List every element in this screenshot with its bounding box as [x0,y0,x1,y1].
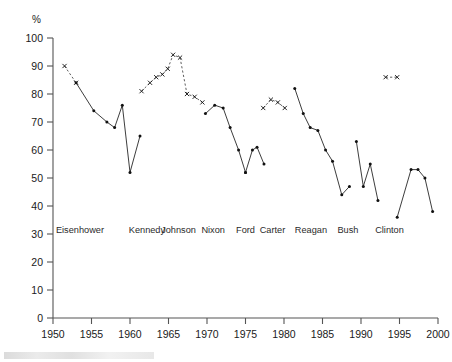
data-point-marker [62,64,66,68]
x-axis-tick-label: 1955 [80,328,104,340]
series-line-clinton [397,170,432,218]
x-axis-tick-label: 1995 [388,328,412,340]
data-point-marker [283,106,287,110]
era-label-ford: Ford [236,225,255,235]
y-axis-tick-label: 40 [31,200,43,212]
data-point-marker [302,112,305,115]
y-axis-tick-label: 90 [31,60,43,72]
data-point-marker [316,129,319,132]
data-point-marker [262,163,265,166]
data-point-marker [200,100,204,104]
data-point-marker [376,199,379,202]
y-axis-tick-label: 80 [31,88,43,100]
data-point-marker [251,149,254,152]
data-point-marker [139,89,143,93]
data-point-marker [229,126,232,129]
data-point-marker [269,98,273,102]
data-point-marker [348,185,351,188]
x-axis-tick-label: 1990 [349,328,373,340]
data-point-marker [331,160,334,163]
data-point-marker [261,106,265,110]
x-axis-tick-label: 1975 [234,328,258,340]
y-axis-tick-label: 60 [31,144,43,156]
era-label-clinton: Clinton [375,225,404,235]
y-axis-unit-label: % [32,14,41,25]
y-axis-tick-label: 0 [37,312,43,324]
era-label-johnson: Johnson [161,225,196,235]
y-axis-tick-label: 100 [25,32,43,44]
data-point-marker [105,121,108,124]
era-label-reagan: Reagan [295,225,327,235]
series-line-eisenhower-solid [76,83,140,173]
era-label-kennedy: Kennedy [129,225,166,235]
data-point-marker [431,210,434,213]
data-point-marker [423,177,426,180]
data-point-marker [171,53,175,57]
data-point-marker [256,146,259,149]
era-label-carter: Carter [260,225,286,235]
x-axis-tick-label: 1960 [118,328,142,340]
data-point-marker [193,95,197,99]
series-line-nixon [205,105,245,172]
series-line-bush [356,142,378,201]
series-line-reagan [295,88,350,194]
data-point-marker [340,193,343,196]
x-axis-tick-label: 1970 [195,328,219,340]
data-point-marker [309,126,312,129]
footer-artifact [4,352,154,359]
data-point-marker [237,149,240,152]
data-point-marker [244,171,247,174]
data-point-marker [276,100,280,104]
data-point-marker [416,168,419,171]
data-point-marker [369,163,372,166]
data-point-marker [121,104,124,107]
y-axis-tick-label: 10 [31,284,43,296]
data-point-marker [154,75,158,79]
series-line-carter [263,100,285,108]
x-axis-tick-label: 1985 [311,328,335,340]
x-axis-tick-label: 1950 [41,328,65,340]
data-point-marker [166,67,170,71]
chart-canvas: %010203040506070809010019501955196019651… [0,0,452,362]
approval-rating-chart: %010203040506070809010019501955196019651… [0,0,452,362]
series-line-eisenhower [65,66,77,83]
data-point-marker [113,126,116,129]
era-label-eisenhower: Eisenhower [56,225,104,235]
data-point-marker [324,149,327,152]
data-point-marker [75,81,78,84]
data-point-marker [129,171,132,174]
data-point-marker [92,109,95,112]
data-point-marker [213,104,216,107]
data-point-marker [362,185,365,188]
series-line-ford [246,147,264,172]
y-axis-tick-label: 50 [31,172,43,184]
data-point-marker [293,87,296,90]
data-point-marker [222,107,225,110]
y-axis-tick-label: 20 [31,256,43,268]
data-point-marker [396,216,399,219]
data-point-marker [148,81,152,85]
x-axis-tick-label: 1965 [157,328,181,340]
era-label-bush: Bush [337,225,358,235]
data-point-marker [355,140,358,143]
data-point-marker [160,72,164,76]
y-axis-tick-label: 70 [31,116,43,128]
era-label-nixon: Nixon [201,225,225,235]
data-point-marker [139,135,142,138]
x-axis-tick-label: 1980 [272,328,296,340]
data-point-marker [204,112,207,115]
y-axis-tick-label: 30 [31,228,43,240]
data-point-marker [410,168,413,171]
x-axis-tick-label: 2000 [426,328,450,340]
